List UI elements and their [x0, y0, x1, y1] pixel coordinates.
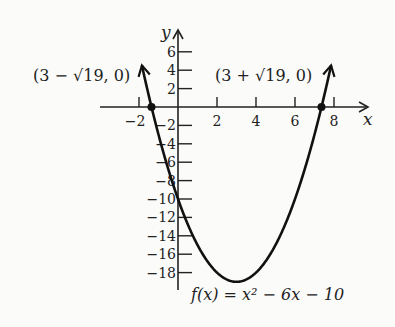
- x-axis-label: x: [363, 109, 373, 129]
- x-tick-label: −2: [125, 113, 146, 129]
- x-tick-label: 4: [252, 113, 261, 129]
- y-axis-ticks: 642−2−4−6−8−10−12−14−16−18: [146, 44, 192, 281]
- function-label: f(x) = x² − 6x − 10: [190, 285, 344, 304]
- root-point: [317, 103, 325, 111]
- root-point: [148, 103, 156, 111]
- y-tick-label: 4: [167, 62, 176, 78]
- y-tick-label: −18: [146, 265, 176, 281]
- y-tick-label: 6: [167, 44, 176, 60]
- y-tick-label: −16: [146, 246, 176, 262]
- y-tick-label: −14: [146, 228, 176, 244]
- y-tick-label: 2: [167, 81, 176, 97]
- x-tick-label: 8: [330, 113, 339, 129]
- function-graph: x y −22468 642−2−4−6−8−10−12−14−16−18 (3…: [0, 0, 395, 327]
- y-axis-label: y: [160, 22, 171, 42]
- right-root-label: (3 + √19, 0): [215, 66, 312, 85]
- left-root-label: (3 − √19, 0): [33, 66, 130, 85]
- y-tick-label: −12: [146, 209, 176, 225]
- x-tick-label: 6: [291, 113, 300, 129]
- axes: x y: [100, 22, 373, 290]
- x-tick-label: 2: [213, 113, 222, 129]
- y-tick-label: −10: [146, 191, 176, 207]
